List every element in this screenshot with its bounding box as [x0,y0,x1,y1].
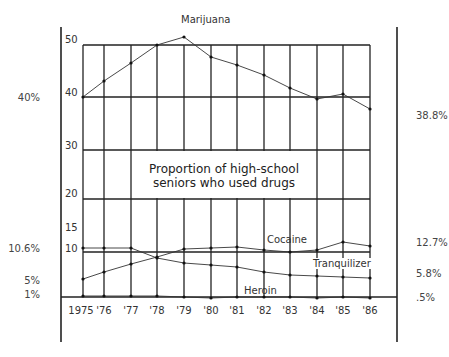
y-tick-40: 40 [65,87,78,98]
data-point [368,296,371,299]
data-point [368,107,371,110]
data-point [209,55,212,58]
data-point [235,265,238,268]
x-tick-label: 1975 [68,305,93,316]
end-value-label: 12.7% [416,237,448,248]
x-tick-label: '85 [335,305,350,316]
data-point [102,270,105,273]
data-point [81,277,84,280]
chart-title-line-2: seniors who used drugs [132,176,316,190]
x-tick-label: '83 [282,305,297,316]
data-point [182,261,185,264]
data-point [129,246,132,249]
chart-title: Proportion of high-school seniors who us… [132,151,316,198]
data-point [235,245,238,248]
data-point [209,296,212,299]
series-label-cocaine: Cocaine [267,234,307,245]
x-tick-label: '78 [149,305,164,316]
data-point [262,270,265,273]
x-tick-label: '80 [203,305,218,316]
data-point [262,248,265,251]
data-point [288,295,291,298]
data-point [288,86,291,89]
data-point [315,274,318,277]
y-tick-30: 30 [65,140,78,151]
x-tick-label: '79 [176,305,191,316]
data-point [102,79,105,82]
x-tick-label: '76 [96,305,111,316]
data-point [102,246,105,249]
data-point [341,275,344,278]
data-point [129,61,132,64]
data-point [81,246,84,249]
data-point [235,295,238,298]
start-value-label: 10.6% [8,243,40,254]
series-label-tranquilizer: Tranquilizer [313,258,371,269]
series-label-marijuana: Marijuana [181,14,230,25]
data-point [315,97,318,100]
data-point [368,244,371,247]
x-tick-label: '82 [256,305,271,316]
data-point [341,92,344,95]
data-point [81,95,84,98]
y-tick-20: 20 [65,188,78,199]
x-tick-label: '84 [309,305,324,316]
data-point [368,276,371,279]
data-point [262,73,265,76]
data-point [341,295,344,298]
data-point [129,294,132,297]
data-point [155,294,158,297]
end-value-label: .5% [416,292,435,303]
y-tick-50: 50 [65,34,78,45]
data-point [102,294,105,297]
data-point [288,273,291,276]
start-value-label: 1% [24,289,40,300]
data-point [341,240,344,243]
y-tick-15: 15 [65,222,78,233]
series-label-heroin: Heroin [244,285,277,296]
data-point [235,63,238,66]
data-point [81,294,84,297]
data-point [182,35,185,38]
chart-title-line-1: Proportion of high-school [132,162,316,176]
data-point [155,255,158,258]
data-point [182,247,185,250]
x-tick-label: '86 [362,305,377,316]
x-tick-label: '77 [123,305,138,316]
x-tick-label: '81 [229,305,244,316]
series-line-marijuana [83,37,370,109]
data-point [288,250,291,253]
data-point [209,263,212,266]
start-value-label: 40% [18,92,40,103]
data-point [182,295,185,298]
y-tick-10: 10 [65,243,78,254]
start-value-label: 5% [24,275,40,286]
data-point [129,262,132,265]
data-point [315,296,318,299]
data-point [155,43,158,46]
end-value-label: 5.8% [416,268,441,279]
data-point [315,248,318,251]
end-value-label: 38.8% [416,110,448,121]
data-point [209,246,212,249]
